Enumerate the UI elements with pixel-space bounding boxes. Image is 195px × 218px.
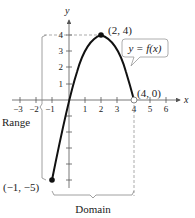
peak-point [98,32,104,38]
svg-text:2: 2 [59,62,64,72]
function-curve [52,35,134,180]
svg-text:3: 3 [115,104,120,114]
svg-text:5: 5 [148,104,153,114]
domain-bracket [52,191,134,198]
svg-text:1: 1 [83,104,88,114]
x-axis-label: x [183,94,189,105]
svg-text:−1: −1 [45,104,55,114]
svg-text:−3: −3 [13,104,23,114]
range-label: Range [2,116,30,128]
x-tick-labels: −3 −2 −1 1 2 3 4 5 6 [13,104,169,114]
function-graph: x y −3 −2 −1 1 2 3 4 5 6 1 2 [0,0,195,218]
start-point [49,177,55,183]
root-label: (4, 0) [137,87,161,100]
svg-text:6: 6 [164,104,169,114]
function-label: y = f(x) [127,42,161,55]
domain-label: Domain [75,203,111,215]
y-axis-label: y [64,5,70,16]
function-callout: y = f(x) [122,39,168,66]
y-tick-labels: 1 2 3 4 [59,30,64,89]
svg-text:−2: −2 [29,104,39,114]
svg-text:1: 1 [59,79,64,89]
svg-text:3: 3 [59,46,64,56]
peak-label: (2, 4) [108,24,132,37]
svg-text:2: 2 [99,104,104,114]
start-label: (−1, −5) [3,181,40,194]
